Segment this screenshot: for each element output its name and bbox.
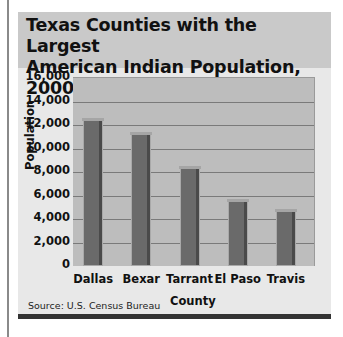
gridline — [73, 125, 314, 126]
bar-travis — [276, 211, 296, 266]
y-tick-label: 14,000 — [20, 93, 70, 107]
chart-title-line-1: Texas Counties with the Largest — [26, 15, 326, 57]
y-tick-label: 12,000 — [20, 116, 70, 130]
y-tick-label: 2,000 — [20, 234, 70, 248]
bar-tarrant — [180, 168, 200, 266]
gridline — [73, 149, 314, 150]
x-tick-label: Travis — [256, 272, 316, 286]
bar-el-paso — [228, 201, 248, 266]
bottom-rule — [18, 314, 331, 319]
y-axis-label: Population — [23, 100, 37, 170]
plot-area — [73, 77, 315, 266]
y-tick-label: 0 — [20, 257, 70, 271]
y-tick-label: 10,000 — [20, 140, 70, 154]
source-note: Source: U.S. Census Bureau — [28, 300, 160, 311]
left-margin-rule — [7, 0, 9, 337]
y-tick-label: 6,000 — [20, 187, 70, 201]
y-tick-label: 4,000 — [20, 210, 70, 224]
x-axis-label: County — [170, 294, 216, 308]
bar-dallas — [83, 120, 103, 266]
y-tick-label: 16,000 — [20, 69, 70, 83]
gridline — [73, 102, 314, 103]
bar-bexar — [131, 134, 151, 266]
y-tick-label: 8,000 — [20, 163, 70, 177]
